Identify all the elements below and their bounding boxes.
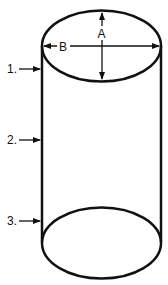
cylinder-diagram: A B 1. 2. 3.: [0, 0, 168, 285]
cylinder-bottom-ellipse: [42, 208, 161, 279]
dimension-a-label: A: [98, 27, 106, 41]
callout-1-label: 1.: [7, 62, 17, 76]
callout-3-label: 3.: [7, 214, 17, 228]
dimension-b-label: B: [59, 40, 67, 54]
callout-2-label: 2.: [7, 133, 17, 147]
